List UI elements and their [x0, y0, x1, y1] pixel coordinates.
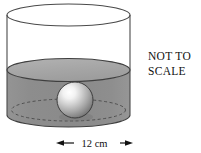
- sphere-group: [57, 82, 93, 122]
- sphere-body: [57, 82, 93, 118]
- figure-root: 12 cm NOT TO SCALE: [0, 0, 201, 153]
- not-to-scale-line-2: SCALE: [148, 65, 186, 77]
- not-to-scale-line-1: NOT TO: [148, 50, 191, 62]
- dimension-label-12cm: 12 cm: [82, 138, 108, 149]
- arrowhead-right-icon: [125, 140, 133, 146]
- geometry-diagram: 12 cm NOT TO SCALE: [0, 0, 201, 153]
- cylinder-top-rim-ellipse: [7, 4, 130, 26]
- liquid-surface-ellipse: [7, 59, 130, 82]
- arrowhead-left-icon: [56, 140, 64, 146]
- dimension-arrow-12cm: 12 cm: [56, 138, 133, 149]
- not-to-scale-annotation: NOT TO SCALE: [148, 50, 191, 77]
